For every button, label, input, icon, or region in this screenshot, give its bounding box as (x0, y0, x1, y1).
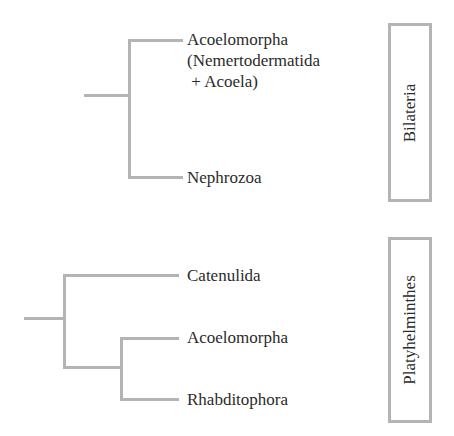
label-line: (Nemertodermatida (187, 50, 320, 71)
group-label-platyhelminthes: Platyhelminthes (400, 275, 420, 385)
branch-acoelomorpha (120, 337, 179, 340)
inner-node-vertical (120, 337, 123, 401)
label-line: Nephrozoa (187, 167, 262, 188)
inner-branch (63, 366, 123, 369)
group-label-bilateria: Bilateria (400, 83, 420, 142)
branch-acoelomorpha (128, 39, 183, 42)
label-line: + Acoela) (187, 71, 320, 92)
branch-catenulida (63, 274, 179, 277)
taxon-label-rhabditophora: Rhabditophora (187, 389, 288, 410)
label-line: Acoelomorpha (187, 327, 288, 348)
label-line: Rhabditophora (187, 389, 288, 410)
branch-rhabditophora (120, 398, 179, 401)
group-box-bilateria: Bilateria (388, 23, 432, 202)
group-box-platyhelminthes: Platyhelminthes (388, 237, 432, 423)
taxon-label-acoelomorpha: Acoelomorpha (Nemertodermatida + Acoela) (187, 29, 320, 92)
taxon-label-catenulida: Catenulida (187, 265, 261, 286)
node-vertical (128, 39, 131, 179)
node-vertical (63, 274, 66, 369)
label-line: Acoelomorpha (187, 29, 320, 50)
branch-nephrozoa (128, 176, 183, 179)
label-line: Catenulida (187, 265, 261, 286)
taxon-label-nephrozoa: Nephrozoa (187, 167, 262, 188)
root-branch (84, 94, 131, 97)
taxon-label-acoelomorpha: Acoelomorpha (187, 327, 288, 348)
root-branch (24, 317, 66, 320)
